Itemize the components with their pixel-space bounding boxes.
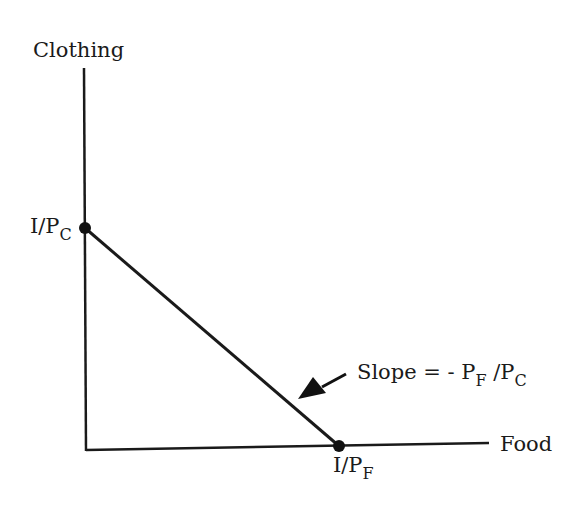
slope-prefix: Slope = - P [357,360,475,384]
budget-line-diagram [0,0,582,527]
y-axis-label: Clothing [33,40,124,61]
y-intercept-label: I/PC [30,216,72,237]
x-axis [86,443,489,450]
x-axis-label: Food [500,434,552,455]
slope-annotation: Slope = - PF /PC [357,362,527,383]
x-intercept-label: I/PF [333,455,374,476]
y-intercept-point [79,222,91,234]
arrow-icon [298,374,346,399]
x-intercept-point [333,440,345,452]
slope-mid: /P [487,360,515,384]
y-intercept-main: I/P [30,214,60,238]
slope-sub-c: C [514,371,526,390]
x-intercept-main: I/P [333,453,363,477]
budget-line [85,228,339,446]
y-axis [84,68,86,451]
y-intercept-sub: C [60,225,72,244]
slope-sub-f: F [475,371,486,390]
x-intercept-sub: F [363,464,374,483]
